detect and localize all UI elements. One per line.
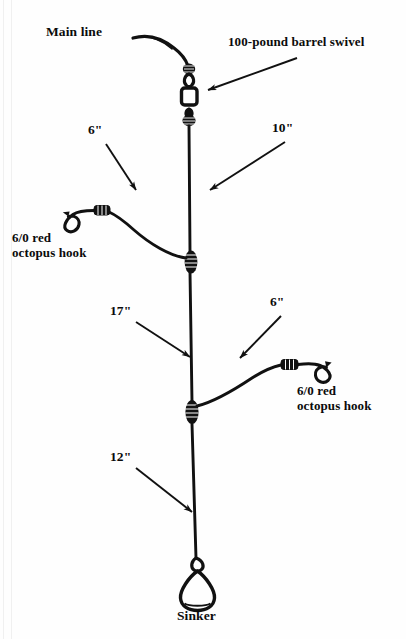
label-hook-left-line1: 6/0 red [12,231,87,246]
arrow-to-swivel [208,58,297,90]
rig-illustration [0,0,406,639]
arrow-6-upper [106,144,136,190]
main-line-tag [133,36,188,66]
measurement-swivel-to-dropper: 10" [272,120,293,135]
main-stem-lower [192,424,196,558]
label-sinker: Sinker [177,608,216,623]
annotation-arrows [106,58,297,512]
label-barrel-swivel: 100-pound barrel swivel [228,35,364,50]
measurement-upper-leader: 6" [88,122,102,137]
arrow-12 [136,468,192,512]
label-hook-right: 6/0 red octopus hook [297,384,372,413]
upper-dropper-knot [185,251,198,274]
lower-hook-crimp [281,360,298,370]
label-hook-left-line2: octopus hook [12,246,87,261]
main-stem-upper [189,126,190,252]
upper-hook-crimp [94,206,110,216]
arrow-6-lower [240,316,281,358]
label-main-line: Main line [46,24,102,39]
label-hook-left: 6/0 red octopus hook [12,231,87,260]
label-hook-right-line1: 6/0 red [297,384,372,399]
diagram-canvas: Main line 100-pound barrel swivel 6/0 re… [0,0,406,639]
arrow-10 [210,142,285,190]
measurement-between-droppers: 17" [110,303,131,318]
measurement-dropper-to-sinker: 12" [110,449,131,464]
barrel-swivel-graphic [182,64,198,127]
lower-dropper-knot [185,400,198,424]
arrow-17 [136,322,190,357]
sinker-graphic [180,558,214,611]
main-stem-middle [190,272,192,402]
measurement-lower-leader: 6" [270,294,284,309]
label-hook-right-line2: octopus hook [297,399,372,414]
